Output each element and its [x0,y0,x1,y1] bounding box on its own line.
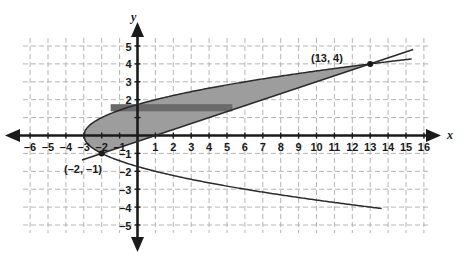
annotation-point-13-4: (13, 4) [311,52,343,64]
y-axis-label: y [129,10,137,24]
point-neg2-neg1 [99,150,105,156]
y-tick-label: –5 [119,220,131,232]
y-tick-label: –2 [119,166,131,178]
x-tick-label: 13 [364,141,376,153]
y-tick-label: 5 [125,41,131,53]
x-tick-label: 4 [206,141,213,153]
y-tick-label: 4 [125,58,132,70]
x-tick-label: 8 [278,141,284,153]
x-tick-label: 1 [152,141,158,153]
x-tick-label: –4 [60,141,73,153]
annotation-point-neg2-neg1: (–2, –1) [64,163,102,175]
point-13-4 [367,61,373,67]
x-tick-label: 11 [329,141,341,153]
coordinate-plane-svg: –6–5–4–3–2–1123456789101112131415165432–… [0,0,465,255]
x-tick-label: 10 [310,141,322,153]
y-tick-label: –4 [119,202,132,214]
y-tick-label: –1 [119,148,131,160]
plot-background [0,0,465,255]
x-tick-label: 15 [400,141,412,153]
x-tick-label: 9 [296,141,302,153]
x-tick-label: –3 [78,141,90,153]
x-tick-label: 3 [188,141,194,153]
x-tick-label: 12 [346,141,358,153]
x-tick-label: –6 [24,141,36,153]
x-axis-label: x [446,128,453,142]
y-tick-label: –3 [119,184,131,196]
coordinate-graph-figure: –6–5–4–3–2–1123456789101112131415165432–… [0,0,465,255]
y-tick-label: 3 [125,76,131,88]
x-tick-label: –5 [42,141,54,153]
x-tick-label: 2 [170,141,176,153]
x-tick-label: 6 [242,141,248,153]
x-tick-label: 14 [382,141,395,153]
y-tick-label: 2 [125,94,131,106]
x-tick-label: 5 [224,141,230,153]
x-tick-label: 7 [260,141,266,153]
x-tick-label: 16 [418,141,430,153]
